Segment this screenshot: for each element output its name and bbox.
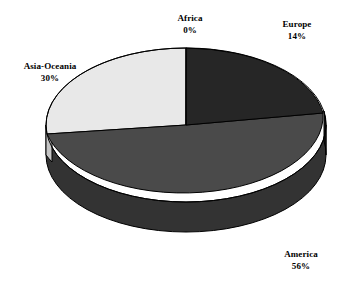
pie-label-america-value: 56% [262, 261, 340, 273]
pie-label-asia-oceania-value: 30% [4, 73, 96, 85]
pie-label-africa-name: Africa [151, 13, 229, 25]
pie-chart-graphic [0, 0, 360, 284]
pie-label-america-name: America [262, 249, 340, 261]
pie-label-asia-oceania-name: Asia-Oceania [4, 61, 96, 73]
pie-label-europe-name: Europe [258, 19, 336, 31]
pie-label-america: America 56% [262, 249, 340, 272]
pie-label-asia-oceania: Asia-Oceania 30% [4, 61, 96, 84]
pie-label-europe: Europe 14% [258, 19, 336, 42]
slice-europe [186, 48, 323, 125]
slice-africa [186, 48, 187, 125]
pie-label-africa: Africa 0% [151, 13, 229, 36]
pie-chart: Africa 0% Europe 14% Asia-Oceania 30% Am… [0, 0, 360, 284]
pie-label-africa-value: 0% [151, 25, 229, 37]
pie-label-europe-value: 14% [258, 31, 336, 43]
